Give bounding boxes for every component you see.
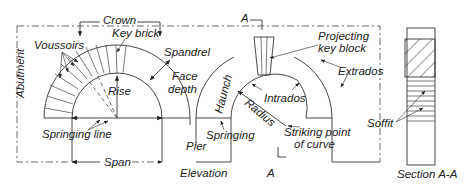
arch-diagram: Crown Key brick Voussoirs Spandrel Face … [0,0,468,188]
label-striking-point-1: Striking point [284,126,351,138]
label-haunch: Haunch [212,73,234,114]
label-abutment: Abutment [14,48,26,99]
label-pier: Pier [186,140,208,152]
label-spandrel: Spandrel [164,46,210,58]
label-springing: Springing [206,129,255,141]
label-section-aa: Section A-A [397,168,458,180]
label-voussoirs: Voussoirs [34,39,84,51]
label-face-depth-2: depth [168,83,197,95]
voussoir-joints [45,45,126,113]
label-face-depth-1: Face [172,70,198,82]
label-projecting-key-block-1: Projecting [318,30,370,42]
label-springing-line: Springing line [42,128,112,140]
label-crown: Crown [103,14,136,26]
label-section-a-bottom: A [266,167,275,179]
label-extrados: Extrados [338,65,384,77]
section-aa [396,28,435,165]
label-striking-point-2: of curve [294,138,335,150]
label-section-a-top: A [240,12,249,24]
soffit-courses [407,81,435,121]
label-span: Span [104,156,131,168]
label-soffit: Soffit [367,117,394,129]
label-projecting-key-block-2: key block [318,42,367,54]
label-key-brick: Key brick [112,27,161,39]
label-rise: Rise [108,85,131,97]
label-intrados: Intrados [264,92,306,104]
label-elevation: Elevation [180,167,227,179]
